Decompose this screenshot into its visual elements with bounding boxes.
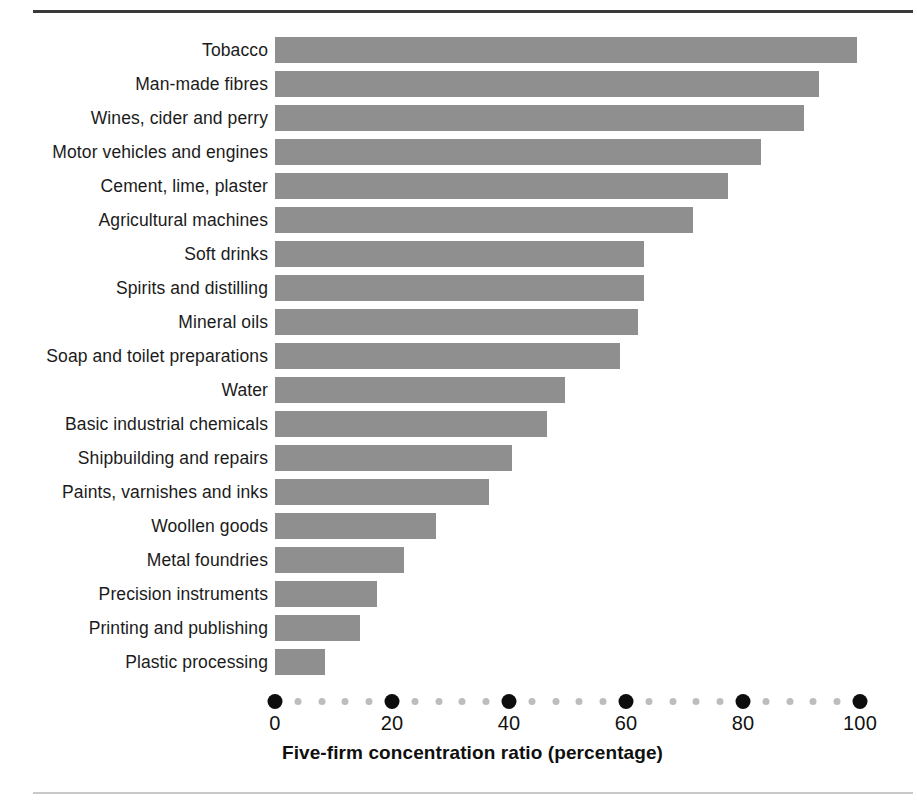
x-axis-tick-labels: 020406080100	[0, 712, 917, 740]
category-label: Shipbuilding and repairs	[78, 445, 268, 471]
category-label: Printing and publishing	[89, 615, 268, 641]
bar-row: Paints, varnishes and inks	[0, 479, 917, 505]
bar	[275, 615, 360, 641]
category-label: Man-made fibres	[135, 71, 268, 97]
minor-tick-dot	[669, 698, 676, 705]
minor-tick-dot	[459, 698, 466, 705]
minor-tick-dot	[786, 698, 793, 705]
category-label: Motor vehicles and engines	[52, 139, 268, 165]
minor-tick-dot	[599, 698, 606, 705]
bar	[275, 71, 819, 97]
major-tick-dot	[619, 694, 634, 709]
bar	[275, 581, 377, 607]
bar-row: Printing and publishing	[0, 615, 917, 641]
bar	[275, 377, 565, 403]
bar-row: Mineral oils	[0, 309, 917, 335]
category-label: Spirits and distilling	[116, 275, 268, 301]
bar	[275, 207, 693, 233]
major-tick-dot	[268, 694, 283, 709]
bar	[275, 173, 728, 199]
bar	[275, 411, 547, 437]
minor-tick-dot	[365, 698, 372, 705]
major-tick-dot	[853, 694, 868, 709]
minor-tick-dot	[435, 698, 442, 705]
major-tick-dot	[502, 694, 517, 709]
bar-row: Woollen goods	[0, 513, 917, 539]
minor-tick-dot	[810, 698, 817, 705]
bottom-divider-rule	[33, 792, 913, 794]
bar-row: Metal foundries	[0, 547, 917, 573]
category-label: Metal foundries	[147, 547, 268, 573]
minor-tick-dot	[529, 698, 536, 705]
bar	[275, 649, 325, 675]
bar-row: Agricultural machines	[0, 207, 917, 233]
minor-tick-dot	[833, 698, 840, 705]
minor-tick-dot	[763, 698, 770, 705]
bar-row: Basic industrial chemicals	[0, 411, 917, 437]
category-label: Soft drinks	[184, 241, 268, 267]
minor-tick-dot	[295, 698, 302, 705]
bar	[275, 547, 404, 573]
bar-row: Soft drinks	[0, 241, 917, 267]
minor-tick-dot	[552, 698, 559, 705]
bar-row: Wines, cider and perry	[0, 105, 917, 131]
bar	[275, 275, 644, 301]
bar	[275, 241, 644, 267]
minor-tick-dot	[716, 698, 723, 705]
category-label: Cement, lime, plaster	[101, 173, 268, 199]
tick-label: 60	[615, 712, 638, 735]
bar-row: Motor vehicles and engines	[0, 139, 917, 165]
category-label: Paints, varnishes and inks	[62, 479, 268, 505]
bar	[275, 445, 512, 471]
bar-row: Precision instruments	[0, 581, 917, 607]
category-label: Precision instruments	[99, 581, 268, 607]
category-label: Wines, cider and perry	[91, 105, 268, 131]
category-label: Basic industrial chemicals	[65, 411, 268, 437]
tick-label: 80	[732, 712, 755, 735]
x-axis-ticks	[0, 694, 917, 712]
minor-tick-dot	[646, 698, 653, 705]
bar-row: Shipbuilding and repairs	[0, 445, 917, 471]
bar	[275, 479, 489, 505]
bar	[275, 343, 620, 369]
bar-row: Man-made fibres	[0, 71, 917, 97]
bar	[275, 37, 857, 63]
bar-row: Soap and toilet preparations	[0, 343, 917, 369]
bar-row: Tobacco	[0, 37, 917, 63]
category-label: Tobacco	[202, 37, 268, 63]
bar-row: Plastic processing	[0, 649, 917, 675]
bar-row: Spirits and distilling	[0, 275, 917, 301]
bar	[275, 309, 638, 335]
minor-tick-dot	[412, 698, 419, 705]
minor-tick-dot	[482, 698, 489, 705]
minor-tick-dot	[342, 698, 349, 705]
bar-row: Water	[0, 377, 917, 403]
bar	[275, 139, 761, 165]
category-label: Mineral oils	[178, 309, 268, 335]
minor-tick-dot	[318, 698, 325, 705]
category-label: Soap and toilet preparations	[46, 343, 268, 369]
major-tick-dot	[385, 694, 400, 709]
category-label: Woollen goods	[151, 513, 268, 539]
major-tick-dot	[736, 694, 751, 709]
category-label: Water	[221, 377, 268, 403]
bar	[275, 513, 436, 539]
category-label: Plastic processing	[125, 649, 268, 675]
tick-label: 100	[843, 712, 877, 735]
minor-tick-dot	[693, 698, 700, 705]
x-axis-title: Five-firm concentration ratio (percentag…	[0, 742, 917, 764]
tick-label: 0	[269, 712, 280, 735]
five-firm-concentration-bar-chart: TobaccoMan-made fibresWines, cider and p…	[0, 0, 917, 800]
category-label: Agricultural machines	[99, 207, 268, 233]
bar-row: Cement, lime, plaster	[0, 173, 917, 199]
bar	[275, 105, 804, 131]
minor-tick-dot	[576, 698, 583, 705]
tick-label: 40	[498, 712, 521, 735]
tick-label: 20	[381, 712, 404, 735]
